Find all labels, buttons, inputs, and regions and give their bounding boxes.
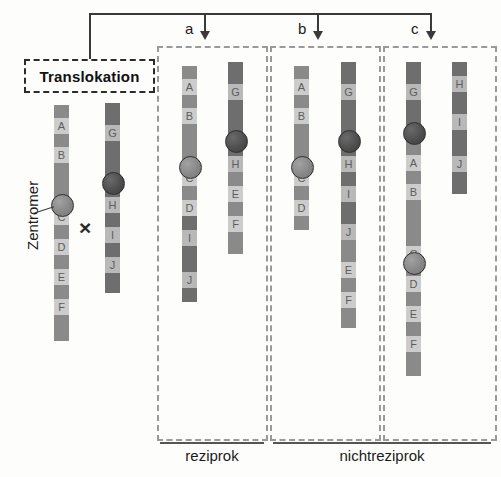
panel-c-chromosome-left: G A B C D E F [406,62,421,376]
chromosome-band-B: B [294,108,309,124]
chromosome-band-A: A [406,155,421,171]
band-label: E [341,265,356,276]
chromosome-band-J: J [452,156,467,172]
chromosome-band-F: F [341,292,356,308]
centromere-panel-c-left-lower [403,252,426,275]
centromere-parent-right [102,172,125,195]
band-label: I [105,230,120,241]
parent-chromosome-right: G H I J [105,103,120,293]
connector-branch-c [430,13,432,33]
reziprok-underline [160,442,264,444]
chromosome-segment [182,288,197,302]
arrow-c-icon [426,31,436,40]
connector-horizontal-bus [89,13,432,15]
chromosome-segment [406,171,421,184]
parent-chromosome-left: A B C D E F [54,105,69,341]
chromosome-segment [182,246,197,272]
band-label: G [105,128,120,139]
chromosome-band-I: I [105,227,120,243]
chromosome-band-H: H [228,156,243,172]
band-label: H [105,200,120,211]
chromosome-band-E: E [341,262,356,278]
chromosome-band-J: J [341,224,356,240]
chromosome-band-D: D [182,200,197,216]
chromosome-band-I: I [452,114,467,130]
chromosome-band-E: E [406,306,421,322]
panel-letter-b: b [298,20,306,37]
reziprok-label: reziprok [160,447,264,464]
chromosome-segment [105,273,120,293]
centromere-panel-c-left-upper [403,122,426,145]
chromosome-band-A: A [54,118,69,134]
chromosome-band-I: I [341,186,356,202]
translokation-label-text: Translokation [39,68,139,85]
chromosome-segment [182,216,197,230]
band-label: D [406,279,421,290]
band-label: H [452,79,467,90]
cross-symbol: × [79,216,91,240]
band-label: B [182,111,197,122]
band-label: I [182,233,197,244]
chromosome-band-E: E [54,269,69,285]
panel-a-chromosome-right: G H E F [228,62,243,254]
nichtreziprok-underline [273,442,491,444]
centromere-panel-a-left [179,156,202,179]
panel-b [270,46,381,441]
chromosome-band-F: F [406,336,421,352]
chromosome-band-G: G [341,84,356,100]
band-label: E [406,309,421,320]
band-label: J [452,159,467,170]
band-label: J [105,260,120,271]
chromosome-band-D: D [406,276,421,292]
diagram-canvas: a b c Translokation A B C D E F G H I J … [0,0,501,477]
chromosome-segment [228,62,243,84]
band-label: G [341,87,356,98]
panel-a [157,46,268,441]
chromosome-segment [452,172,467,194]
centromere-panel-b-right [338,130,361,153]
band-label: A [406,158,421,169]
chromosome-band-A: A [182,79,197,95]
chromosome-band-B: B [406,184,421,200]
band-label: F [228,219,243,230]
chromosome-segment [341,278,356,292]
panel-b-chromosome-left: A B C D [294,66,309,230]
chromosome-band-F: F [54,299,69,315]
panel-b-chromosome-right: G H I J E F [341,62,356,328]
band-label: J [182,275,197,286]
band-label: J [341,227,356,238]
chromosome-segment [105,103,120,125]
chromosome-segment [105,243,120,257]
band-label: A [182,82,197,93]
band-label: H [341,159,356,170]
chromosome-segment [452,92,467,114]
chromosome-band-G: G [228,84,243,100]
connector-down-to-translokation [89,13,91,60]
chromosome-segment [341,172,356,186]
chromosome-band-H: H [341,156,356,172]
translokation-label-box: Translokation [24,59,155,93]
centromere-panel-b-left [291,156,314,179]
chromosome-segment [406,200,421,246]
chromosome-segment [54,315,69,341]
connector-branch-b [317,13,319,33]
chromosome-segment [406,62,421,84]
chromosome-segment [228,172,243,186]
connector-branch-a [204,13,206,33]
band-label: B [294,111,309,122]
chromosome-segment [294,216,309,230]
chromosome-segment [294,95,309,108]
chromosome-segment [452,130,467,156]
chromosome-segment [406,292,421,306]
arrow-a-icon [200,31,210,40]
chromosome-segment [228,202,243,216]
chromosome-segment [54,285,69,299]
panel-a-chromosome-left: A B C D I J [182,66,197,302]
chromosome-band-G: G [406,84,421,100]
band-label: D [54,242,69,253]
chromosome-band-I: I [182,230,197,246]
arrow-b-icon [313,31,323,40]
chromosome-band-G: G [105,125,120,141]
chromosome-segment [54,255,69,269]
chromosome-band-H: H [105,197,120,213]
